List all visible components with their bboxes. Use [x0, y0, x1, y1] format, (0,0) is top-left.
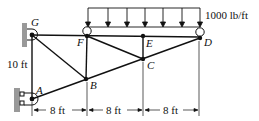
- span-label-2: 8 ft: [106, 104, 121, 116]
- wall-support-g: [22, 23, 27, 47]
- distributed-load: [86, 8, 203, 27]
- hinge-d: [196, 28, 204, 36]
- joint-label-c: C: [147, 59, 155, 71]
- joint-label-d: D: [203, 36, 212, 48]
- joint-label-a: A: [35, 84, 43, 96]
- joint-label-g: G: [31, 16, 39, 28]
- joint-label-b: B: [90, 79, 97, 91]
- joint-label-f: F: [76, 36, 84, 48]
- span-label-3: 8 ft: [163, 104, 178, 116]
- load-label: 1000 lb/ft: [205, 9, 248, 21]
- truss-diagram: G F E D C B A 1000 lb/ft 10 ft 8 ft 8 ft…: [0, 0, 259, 121]
- joint-label-e: E: [145, 37, 153, 49]
- truss-members: [32, 35, 200, 99]
- span-label-1: 8 ft: [50, 104, 65, 116]
- wall-support-a: [14, 88, 20, 112]
- height-dimension-label: 10 ft: [7, 58, 27, 70]
